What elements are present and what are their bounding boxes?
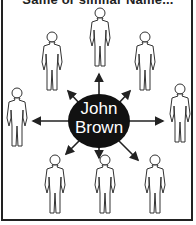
person-icon-upper-left [42, 32, 62, 90]
person-icon-lower-left [45, 155, 65, 213]
center-first-name: John [70, 99, 128, 118]
arrow-lower-right [118, 140, 138, 160]
person-icon-lower-right [145, 155, 165, 213]
arrow-lower-left [66, 140, 80, 154]
person-icon-left [7, 88, 27, 146]
person-icon-right [170, 84, 190, 142]
center-last-name: Brown [70, 118, 128, 137]
diagram-frame: Same or similar Name... [0, 0, 196, 225]
person-icon-lower-center [95, 155, 115, 213]
center-node-label: John Brown [70, 99, 128, 137]
person-icon-upper-right [135, 32, 155, 90]
person-icon-top [90, 8, 110, 66]
